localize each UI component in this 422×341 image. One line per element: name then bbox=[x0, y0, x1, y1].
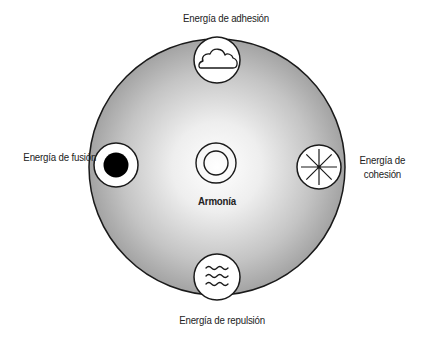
cohesion-label-line2: cohesión bbox=[356, 167, 409, 181]
fusion-label: Energía de fusión bbox=[23, 150, 92, 164]
adhesion-label: Energía de adhesión bbox=[183, 11, 257, 25]
repulsion-label: Energía de repulsión bbox=[179, 313, 255, 327]
filled-dot-icon[interactable] bbox=[94, 143, 138, 187]
cloud-icon[interactable] bbox=[194, 37, 240, 83]
asterisk-star-icon[interactable] bbox=[297, 145, 341, 189]
harmony-label: Armonía bbox=[194, 194, 240, 208]
waves-icon[interactable] bbox=[194, 254, 240, 300]
cohesion-label: Energía de cohesión bbox=[356, 153, 409, 181]
cohesion-label-line1: Energía de bbox=[356, 153, 409, 167]
